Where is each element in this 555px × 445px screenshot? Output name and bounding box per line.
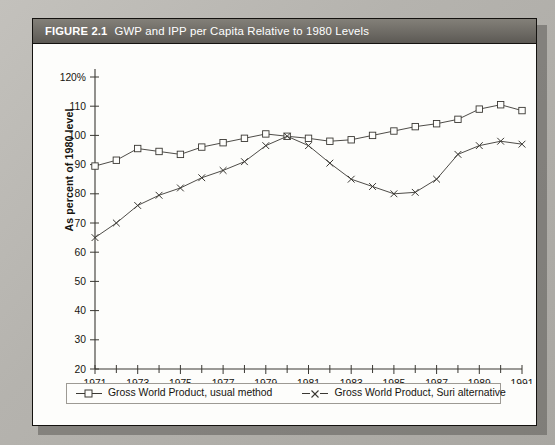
data-point-marker [305, 135, 311, 141]
y-axis-tick-label: 80 [75, 188, 87, 199]
y-axis-tick-label: 60 [75, 247, 87, 258]
legend-item-usual-method: Gross World Product, usual method [76, 388, 272, 399]
cross-marker-icon [302, 388, 328, 399]
y-axis-tick-label: 30 [75, 334, 87, 345]
data-point-marker [198, 174, 205, 181]
data-point-marker [262, 142, 269, 149]
data-point-marker [326, 160, 333, 167]
figure-caption: GWP and IPP per Capita Relative to 1980 … [114, 25, 369, 37]
data-point-marker [220, 167, 227, 174]
figure-card: FIGURE 2.1 GWP and IPP per Capita Relati… [32, 18, 537, 426]
data-point-marker [113, 220, 120, 227]
open-square-marker-icon [76, 388, 102, 399]
legend-item-suri-alternative: Gross World Product, Suri alternative [302, 388, 505, 399]
data-point-marker [263, 131, 269, 137]
data-point-marker [476, 106, 482, 112]
data-point-marker [433, 176, 440, 183]
data-point-marker [177, 185, 184, 192]
data-point-marker [241, 158, 248, 165]
data-point-marker [433, 121, 439, 127]
data-point-marker [177, 151, 183, 157]
data-point-marker [156, 192, 163, 199]
data-point-marker [497, 102, 503, 108]
series-usual-method [92, 102, 525, 170]
legend-label-usual-method: Gross World Product, usual method [108, 388, 272, 398]
data-point-marker [241, 135, 247, 141]
data-point-marker [113, 157, 119, 163]
figure-title-bar: FIGURE 2.1 GWP and IPP per Capita Relati… [33, 19, 536, 44]
y-axis-tick-label: 90 [75, 159, 87, 170]
data-point-marker [92, 163, 98, 169]
y-axis-tick-label: 110 [70, 101, 87, 112]
figure-root: FIGURE 2.1 GWP and IPP per Capita Relati… [0, 0, 555, 445]
data-point-marker [455, 151, 462, 158]
y-axis-tick-label: 20 [75, 364, 87, 375]
data-point-marker [369, 183, 376, 190]
chart-area: As percent of 1980 level 203040506070809… [33, 44, 536, 425]
data-point-marker [455, 116, 461, 122]
data-point-marker [305, 142, 312, 149]
data-point-marker [369, 132, 375, 138]
data-point-marker [476, 142, 483, 149]
y-axis-tick-label: 40 [75, 305, 87, 316]
data-point-marker [391, 128, 397, 134]
data-point-marker [519, 107, 525, 113]
data-point-marker [199, 144, 205, 150]
line-chart-plot: 2030405060708090100110120%19711973197519… [33, 44, 536, 384]
data-point-marker [156, 148, 162, 154]
legend-label-suri-alternative: Gross World Product, Suri alternative [334, 388, 505, 398]
data-point-marker [327, 138, 333, 144]
data-point-marker [348, 176, 355, 183]
data-point-marker [348, 137, 354, 143]
data-point-marker [412, 123, 418, 129]
data-point-marker [220, 140, 226, 146]
y-axis-tick-label: 120% [60, 72, 86, 83]
figure-number-label: FIGURE 2.1 [45, 25, 107, 37]
y-axis-tick-label: 50 [75, 276, 87, 287]
y-axis-tick-label: 70 [75, 218, 87, 229]
chart-legend: Gross World Product, usual method Gross … [66, 383, 501, 404]
data-point-marker [134, 202, 141, 209]
x-axis-tick-label: 1991 [511, 378, 534, 384]
data-point-marker [135, 145, 141, 151]
y-axis-tick-label: 100 [69, 130, 86, 141]
